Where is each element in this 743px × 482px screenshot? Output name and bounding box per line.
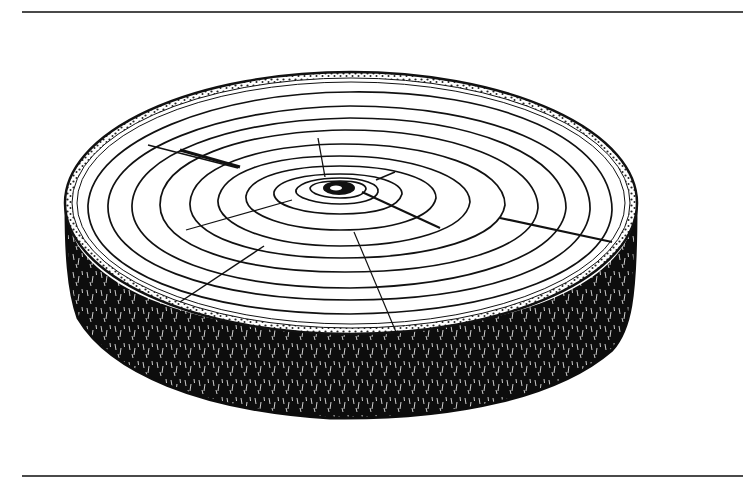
- log-cross-section-illustration: [0, 0, 743, 482]
